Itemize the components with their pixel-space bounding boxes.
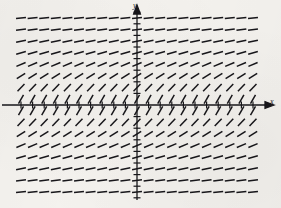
slope-segment bbox=[167, 144, 176, 148]
slope-segment bbox=[39, 51, 49, 54]
slope-segment bbox=[120, 191, 130, 192]
slope-segment bbox=[178, 29, 188, 30]
slope-segment bbox=[28, 131, 36, 136]
slope-segment bbox=[190, 156, 200, 159]
slope-segment bbox=[110, 119, 117, 126]
slope-segment bbox=[110, 73, 118, 78]
slope-segment bbox=[213, 29, 223, 30]
slope-segment bbox=[76, 84, 83, 91]
slope-segment bbox=[225, 40, 235, 42]
slope-segment bbox=[213, 180, 223, 181]
slope-segment bbox=[122, 84, 129, 91]
y-axis-label: y bbox=[133, 2, 137, 10]
slope-segment bbox=[39, 180, 49, 181]
slope-segment bbox=[121, 131, 129, 136]
slope-segment bbox=[179, 73, 187, 78]
slope-segment bbox=[214, 62, 223, 66]
slope-segment bbox=[97, 29, 107, 30]
slope-segment bbox=[121, 73, 129, 78]
slope-segment bbox=[28, 73, 36, 78]
slope-segment bbox=[180, 119, 187, 126]
slope-segment bbox=[39, 168, 49, 170]
slope-segment bbox=[157, 84, 164, 91]
slope-segment bbox=[250, 119, 257, 126]
slope-segment bbox=[202, 144, 211, 148]
slope-segment bbox=[215, 119, 222, 126]
slope-segment bbox=[52, 131, 60, 136]
slope-segment bbox=[180, 84, 187, 91]
slope-segment bbox=[225, 191, 235, 192]
slope-segment bbox=[167, 17, 177, 18]
slope-segment bbox=[155, 17, 165, 18]
slope-segment bbox=[145, 119, 152, 126]
slope-segment bbox=[74, 180, 84, 181]
slope-segment bbox=[213, 17, 223, 18]
slope-segment bbox=[249, 131, 257, 136]
slope-segment bbox=[17, 73, 25, 78]
slope-segment bbox=[122, 119, 129, 126]
slope-segment bbox=[248, 144, 257, 148]
slope-segment bbox=[52, 73, 60, 78]
slope-segment bbox=[144, 51, 154, 54]
slope-segment bbox=[63, 144, 72, 148]
slope-segment bbox=[144, 144, 153, 148]
slope-segment bbox=[109, 156, 119, 159]
slope-segment bbox=[237, 131, 245, 136]
slope-segment bbox=[86, 51, 96, 54]
slope-segment bbox=[97, 51, 107, 54]
slope-segment bbox=[28, 168, 38, 170]
slope-segment bbox=[18, 119, 25, 126]
slope-segment bbox=[86, 168, 96, 170]
slope-segment bbox=[237, 51, 247, 54]
slope-segment bbox=[237, 62, 246, 66]
slope-segment bbox=[202, 180, 212, 181]
slope-segment bbox=[86, 17, 96, 18]
slope-segment bbox=[87, 84, 94, 91]
slope-segment bbox=[248, 180, 258, 181]
slope-segment bbox=[109, 180, 119, 181]
slope-segment bbox=[248, 17, 258, 18]
slope-segment bbox=[167, 168, 177, 170]
slope-segment bbox=[51, 62, 60, 66]
slope-segment bbox=[120, 168, 130, 170]
slope-segment bbox=[202, 17, 212, 18]
slope-segment bbox=[215, 84, 222, 91]
slope-segment bbox=[121, 51, 131, 54]
slope-segment bbox=[202, 62, 211, 66]
slope-segment bbox=[237, 73, 245, 78]
slope-segment bbox=[74, 17, 84, 18]
slope-segment bbox=[202, 191, 212, 192]
slope-segment bbox=[16, 17, 26, 18]
slope-segment bbox=[237, 156, 247, 159]
slope-segment bbox=[225, 168, 235, 170]
slope-segment bbox=[167, 180, 177, 181]
slope-segment bbox=[51, 51, 61, 54]
slope-segment bbox=[191, 131, 199, 136]
slope-segment bbox=[74, 168, 84, 170]
slope-segment bbox=[109, 51, 119, 54]
slope-segment bbox=[190, 62, 199, 66]
slope-segment bbox=[202, 156, 212, 159]
slope-segment bbox=[144, 73, 152, 78]
slope-segment bbox=[62, 40, 72, 42]
slope-segment bbox=[225, 51, 235, 54]
slope-segment bbox=[97, 17, 107, 18]
slope-segment bbox=[39, 40, 49, 42]
slope-segment bbox=[16, 191, 26, 192]
slope-segment bbox=[63, 131, 71, 136]
slope-field-plot bbox=[0, 0, 281, 208]
slope-segment bbox=[40, 73, 48, 78]
slope-segment bbox=[74, 62, 83, 66]
slope-segment bbox=[109, 191, 119, 192]
slope-segment bbox=[120, 17, 130, 18]
slope-segment bbox=[248, 191, 258, 192]
slope-segment bbox=[248, 62, 257, 66]
slope-segment bbox=[63, 73, 71, 78]
slope-segment bbox=[97, 40, 107, 42]
slope-segment bbox=[74, 29, 84, 30]
slope-segment bbox=[63, 62, 72, 66]
x-axis-label: x bbox=[270, 98, 274, 106]
slope-segment bbox=[109, 40, 119, 42]
slope-segment bbox=[202, 168, 212, 170]
slope-segment bbox=[40, 62, 49, 66]
